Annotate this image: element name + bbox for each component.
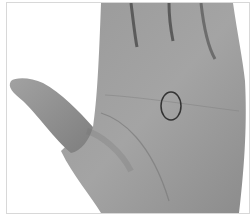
image-frame — [6, 2, 250, 214]
thumb-shape — [10, 78, 93, 153]
hand-photo — [7, 3, 249, 213]
